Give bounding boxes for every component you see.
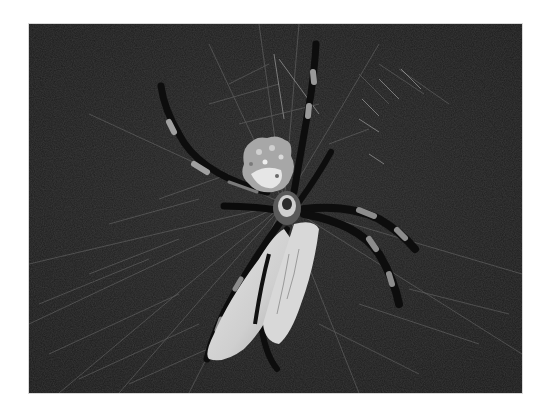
spider-abdomen: [242, 136, 294, 192]
spider-cephalothorax: [273, 191, 301, 225]
page: Spider on web wrapping prey: [0, 0, 549, 412]
spider-photo: [29, 24, 522, 393]
spider-photo-illustration: [29, 24, 522, 393]
